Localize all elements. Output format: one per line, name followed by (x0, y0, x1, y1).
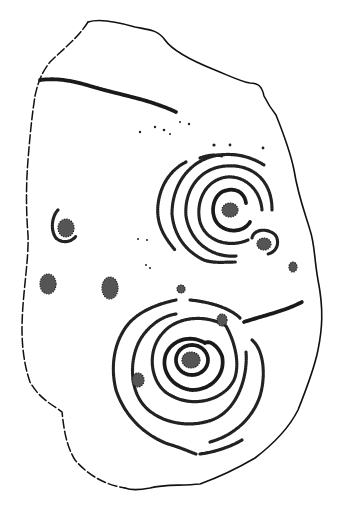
specks (137, 121, 264, 269)
lower-central-cup (182, 352, 200, 368)
lower-upper-cup (217, 314, 227, 326)
cup-left-middle (40, 274, 56, 294)
upper-central-cup (222, 203, 238, 217)
lower-cup-and-rings (113, 300, 263, 454)
small-cup-right (257, 238, 271, 250)
incised-groove-right (244, 302, 302, 322)
cup-right-edge (289, 262, 297, 272)
cup-small-mid (177, 285, 185, 293)
upper-cup-and-rings (158, 154, 278, 262)
lower-side-cup (132, 373, 144, 387)
stone-outline-solid (88, 20, 322, 489)
cup-center-left (102, 277, 118, 299)
rock-carving-drawing (0, 0, 342, 510)
cup-left-upper (58, 219, 74, 237)
incised-groove (40, 79, 176, 112)
